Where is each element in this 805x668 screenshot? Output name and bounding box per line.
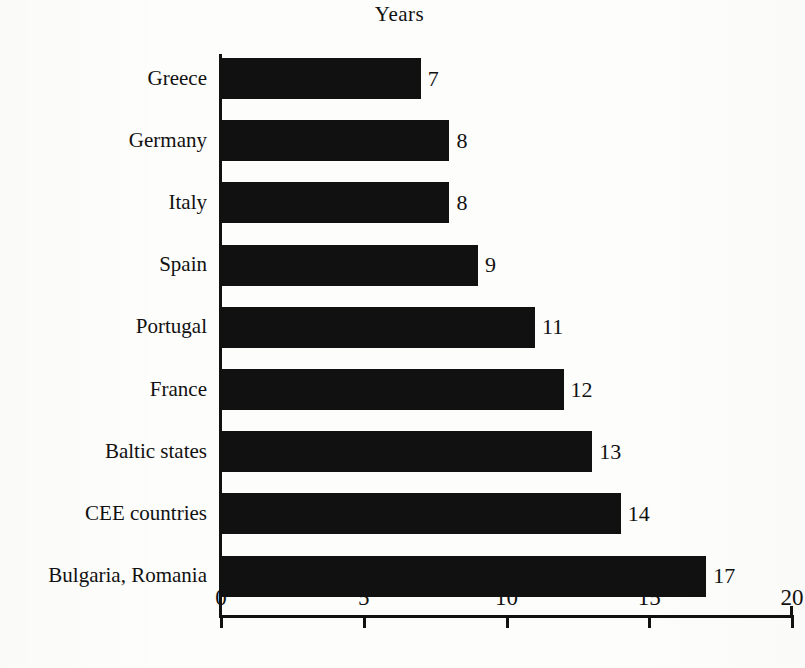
bar [221, 431, 592, 472]
bar-value-label: 13 [599, 440, 621, 462]
bar-value-label: 11 [542, 316, 563, 338]
category-label: France [150, 379, 207, 400]
x-axis-tick-label: 20 [762, 586, 805, 609]
bar [221, 307, 535, 348]
category-label: Portugal [136, 316, 207, 337]
x-axis-tick-label: 15 [619, 586, 679, 609]
chart-title-text: Years [375, 2, 424, 27]
bar [221, 493, 621, 534]
bar-row: 9 [221, 245, 792, 286]
bar-row: 14 [221, 493, 792, 534]
bar-value-label: 14 [628, 502, 650, 524]
bar [221, 245, 478, 286]
bar-value-label: 7 [428, 67, 439, 89]
category-label: Greece [148, 68, 207, 89]
bar [221, 182, 449, 223]
x-axis-tick [648, 615, 651, 628]
bar-row: 11 [221, 307, 792, 348]
bar-value-label: 9 [485, 254, 496, 276]
x-axis-tick-label: 10 [477, 586, 537, 609]
bar-row: 8 [221, 182, 792, 223]
x-axis-tick-label: 5 [334, 586, 394, 609]
bar-value-label: 8 [456, 191, 467, 213]
bar-chart: Years 78891112131417 GreeceGermanyItalyS… [0, 0, 805, 668]
category-label: CEE countries [85, 503, 207, 524]
bar [221, 58, 421, 99]
bar-row: 13 [221, 431, 792, 472]
bar [221, 369, 564, 410]
category-label: Germany [129, 130, 207, 151]
chart-title: Years [0, 2, 805, 27]
bar-value-label: 17 [713, 565, 735, 587]
plot-area: 78891112131417 [221, 54, 792, 617]
bar-value-label: 12 [571, 378, 593, 400]
bar-value-label: 8 [456, 129, 467, 151]
x-axis-tick-label: 0 [191, 586, 251, 609]
x-axis-tick [220, 615, 223, 628]
bar-row: 8 [221, 120, 792, 161]
bar [221, 120, 449, 161]
category-label: Bulgaria, Romania [48, 565, 207, 586]
category-label: Baltic states [105, 441, 207, 462]
category-label: Spain [159, 254, 207, 275]
x-axis-tick [506, 615, 509, 628]
x-axis-tick [791, 615, 794, 628]
category-label: Italy [169, 192, 207, 213]
bar-row: 7 [221, 58, 792, 99]
x-axis-tick [363, 615, 366, 628]
bar-row: 12 [221, 369, 792, 410]
